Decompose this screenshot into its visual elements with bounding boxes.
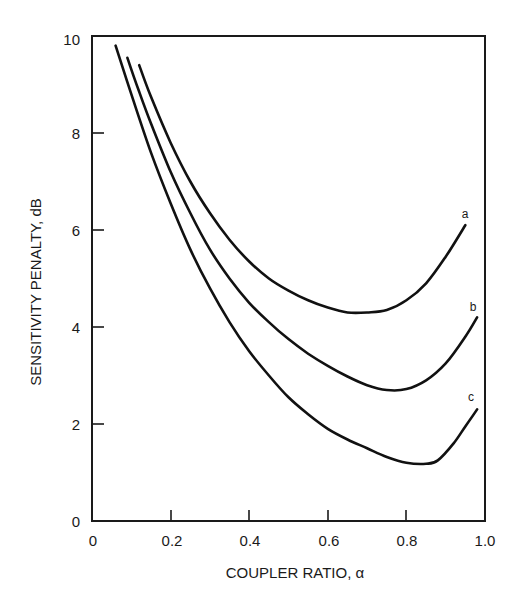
y-axis-labels: 0 2 4 6 8 10 (63, 31, 80, 530)
y-tick-label: 6 (72, 222, 80, 239)
y-tick-label: 10 (63, 31, 80, 48)
curve-c (116, 46, 478, 464)
curve-label-a: a (462, 207, 469, 221)
x-tick-label: 0.8 (397, 532, 418, 549)
plot-frame (92, 36, 485, 521)
x-tick-label: 0.4 (240, 532, 261, 549)
y-tick-label: 8 (72, 125, 80, 142)
x-tick-label: 0.6 (319, 532, 340, 549)
y-tick-label: 4 (72, 319, 80, 336)
x-tick-label: 0.2 (162, 532, 183, 549)
curve-label-b: b (470, 300, 477, 314)
y-axis-ticks (92, 133, 104, 424)
y-axis-title: SENSITIVITY PENALTY, dB (27, 198, 44, 386)
x-tick-label: 1.0 (475, 532, 496, 549)
y-tick-label: 2 (72, 416, 80, 433)
curve-a (139, 65, 465, 313)
x-axis-ticks (171, 510, 406, 521)
x-axis-title: COUPLER RATIO, α (226, 564, 365, 581)
curve-label-c: c (468, 390, 474, 404)
x-tick-label: 0 (89, 532, 97, 549)
x-axis-labels: 0 0.2 0.4 0.6 0.8 1.0 (89, 532, 496, 549)
chart-canvas: 0 2 4 6 8 10 0 0.2 0.4 0.6 0.8 1.0 COUPL… (0, 0, 515, 603)
y-tick-label: 0 (72, 513, 80, 530)
